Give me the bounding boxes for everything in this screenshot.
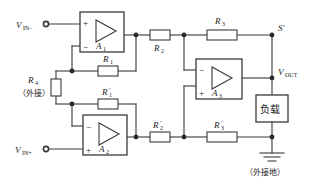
junction-n4 [182,135,187,140]
resistor-r4-label: R [27,75,34,85]
node-vout-sub: OUT [285,72,298,78]
opamp-a1-plus-input: + [83,18,88,28]
junction-vout [270,76,275,81]
terminal-vin-plus-label: V [15,145,22,155]
opamp-a3-label: A [211,88,218,98]
resistor-r1-prime: R 1 ′ [98,86,118,109]
node-vout-label-group: V OUT [278,67,298,78]
terminal-vin-minus-label: V [16,20,23,30]
opamp-a2-minus-input: − [86,122,91,132]
junction-s [270,33,275,38]
circuit-diagram: + − A 1 − + A 2 − + A 3 R 1 R 1 ′ R 2 [0,0,318,180]
opamp-a3: − + A 3 [196,59,242,99]
resistor-r3-prime-body [207,132,237,142]
junction-a2-out [134,135,139,140]
load-label: 负载 [260,103,280,115]
junction-a1-out [134,33,139,38]
resistor-r3-label: R [214,16,221,26]
load-block: 负载 [256,95,288,122]
schematic-canvas: + − A 1 − + A 2 − + A 3 R 1 R 1 ′ R 2 [0,0,318,180]
opamp-a2-sub: 2 [106,149,109,155]
opamp-a1: + − A 1 [80,12,124,52]
resistor-r4-note: （外接） [18,88,50,98]
opamp-a3-minus-input: − [199,65,204,75]
opamp-a2-label: A [98,144,105,154]
junction-n1 [70,69,75,74]
resistor-r1-prime-body [98,99,118,109]
resistor-r1: R 1 [98,54,118,76]
resistor-r3-sub: 3 [222,21,225,27]
resistor-r3-body [207,30,237,40]
opamp-a1-label: A [95,41,102,51]
resistor-r4: R 4 （外接） [18,75,61,98]
resistor-r3: R 3 [207,16,237,40]
resistor-r2-label: R [153,43,160,53]
resistor-r4-body [51,79,61,96]
resistor-r2-prime-label: R [152,120,159,130]
node-vout-label: V [278,67,285,77]
resistor-r2-sub: 2 [161,48,164,54]
ground-note: （外接地） [245,167,285,177]
opamp-a3-sub: 3 [219,93,222,99]
junction-n2 [182,33,187,38]
junction-n3 [70,102,75,107]
terminal-vin-plus: V IN+ [15,145,49,156]
junction-gnd [270,135,275,140]
resistor-r2-prime: R 2 ′ [150,119,170,142]
resistor-r1-sub: 1 [110,59,113,65]
resistor-r3-prime-label: R [213,120,220,130]
resistor-r1-label: R [102,54,109,64]
resistor-r2-prime-body [150,132,170,142]
resistor-r1-prime-label: R [101,87,108,97]
node-s-label: S′ [278,23,286,33]
terminal-vin-minus: V IN− [16,20,49,31]
opamp-a2-plus-input: + [86,145,91,155]
opamp-a1-sub: 1 [103,46,106,52]
resistor-r2: R 2 [150,30,170,54]
terminal-vin-plus-dot [43,146,48,151]
resistor-r2-body [150,30,170,40]
opamp-a3-plus-input: + [199,88,204,98]
resistor-r3-prime: R 3 ′ [207,119,237,142]
terminal-vin-minus-sub: IN− [23,25,33,31]
resistor-r1-body [98,66,118,76]
opamp-a1-minus-input: − [83,42,88,52]
terminal-vin-minus-dot [43,21,48,26]
terminal-vin-plus-sub: IN+ [22,150,32,156]
resistor-r4-sub: 4 [35,80,38,86]
opamp-a2: − + A 2 [83,115,127,155]
